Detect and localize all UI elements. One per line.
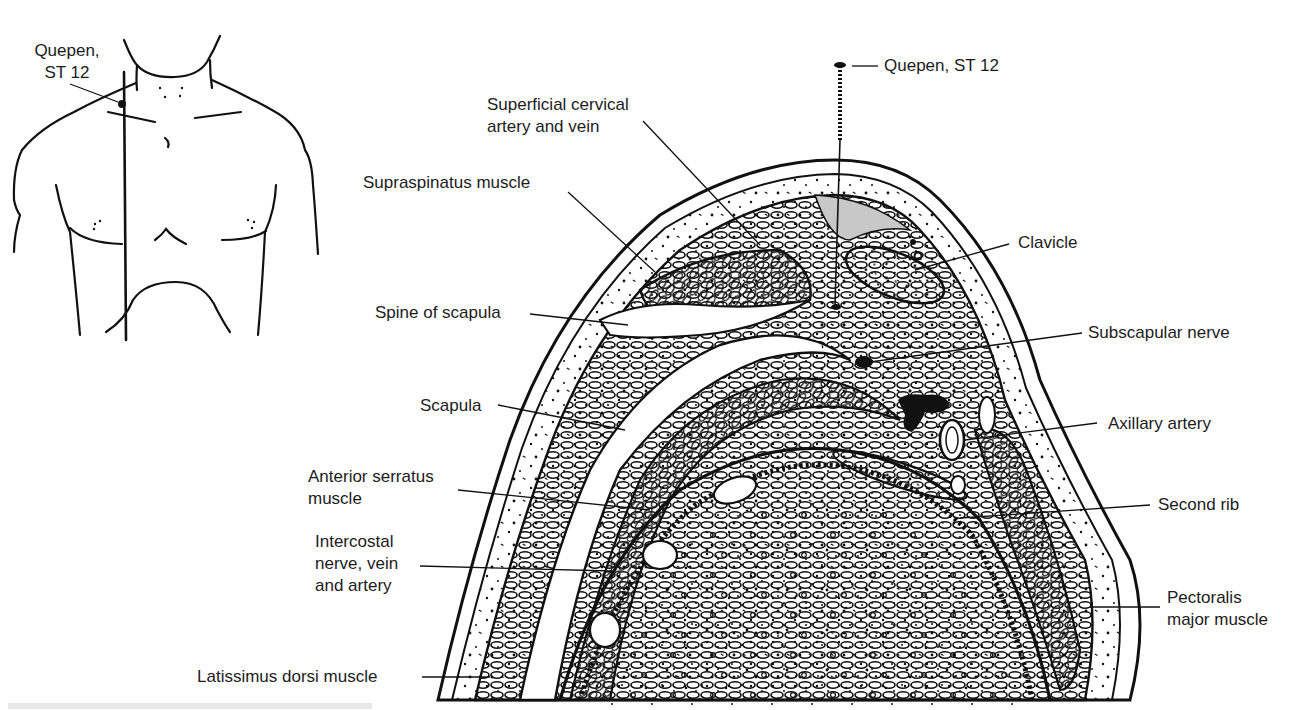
label-scapula: Scapula: [420, 395, 481, 417]
label-line: nerve, vein: [315, 553, 398, 575]
label-superficial-cervical-artery-vein: Superficial cervical artery and vein: [487, 94, 629, 138]
label-line: artery and vein: [487, 116, 629, 138]
label-supraspinatus-muscle: Supraspinatus muscle: [363, 172, 530, 194]
label-line: Pectoralis: [1167, 587, 1268, 609]
label-line: Intercostal: [315, 531, 398, 553]
label-intercostal-nerve-vein-artery: Intercostal nerve, vein and artery: [315, 531, 398, 597]
acupoint-marker: [118, 100, 126, 108]
axillary-artery: [940, 420, 964, 460]
inset-label: Quepen, ST 12: [26, 40, 108, 84]
label-line: and artery: [315, 575, 398, 597]
meridian-line: [124, 72, 126, 340]
label-pectoralis-major-muscle: Pectoralis major muscle: [1167, 587, 1268, 631]
nipple-marks: [93, 87, 255, 230]
label-line: muscle: [308, 488, 434, 510]
label-subscapular-nerve: Subscapular nerve: [1088, 322, 1230, 344]
needle-label: Quepen, ST 12: [884, 55, 999, 77]
scan-edge-strip: [8, 703, 372, 709]
label-axillary-artery: Axillary artery: [1108, 413, 1211, 435]
neck-outline: [124, 36, 220, 77]
label-spine-of-scapula: Spine of scapula: [375, 302, 501, 324]
label-line: Superficial cervical: [487, 94, 629, 116]
inset-label-line: Quepen,: [26, 40, 108, 62]
label-anterior-serratus-muscle: Anterior serratus muscle: [308, 466, 434, 510]
right-shoulder-outline: [212, 80, 318, 254]
label-clavicle: Clavicle: [1018, 232, 1078, 254]
anatomy-illustration: [0, 0, 1296, 710]
left-shoulder-outline: [14, 83, 136, 252]
label-second-rib: Second rib: [1158, 494, 1239, 516]
label-line: Anterior serratus: [308, 466, 434, 488]
inset-label-line: ST 12: [26, 62, 108, 84]
label-line: major muscle: [1167, 609, 1268, 631]
label-latissimus-dorsi-muscle: Latissimus dorsi muscle: [197, 666, 377, 688]
